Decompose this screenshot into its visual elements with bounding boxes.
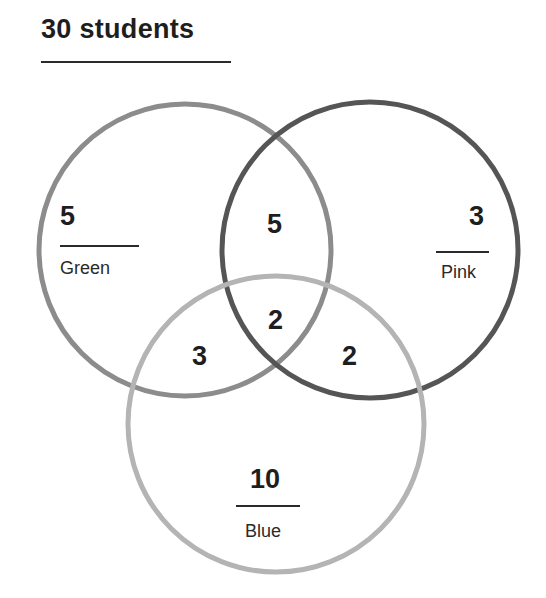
green-pink-count: 5 [267,211,282,238]
pink-label: Pink [441,263,476,281]
green-label-rule [60,245,139,247]
green-circle [39,104,331,396]
pink-blue-count: 2 [342,343,357,370]
pink-only-count: 3 [469,203,484,230]
all-three-count: 2 [268,307,283,334]
blue-only-count: 10 [250,466,280,493]
green-only-count: 5 [60,203,75,230]
green-blue-count: 3 [192,343,207,370]
pink-label-rule [436,251,489,253]
venn-diagram [0,0,546,598]
blue-label-rule [236,505,300,507]
pink-circle [222,102,518,398]
blue-label: Blue [245,522,281,540]
green-label: Green [60,259,110,277]
